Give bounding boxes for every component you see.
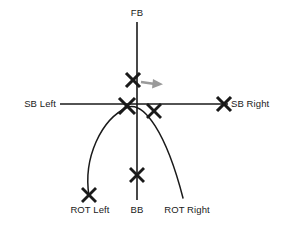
- diagram-canvas: FB SB Left SB Right ROT Left BB ROT Righ…: [0, 0, 286, 230]
- ball-path-arc: [88, 106, 183, 198]
- label-sb-left: SB Left: [24, 98, 56, 109]
- direction-arrow-head: [152, 79, 163, 89]
- label-rot-left: ROT Left: [70, 204, 109, 215]
- fb-marker-icon: [126, 73, 140, 87]
- label-sb-right: SB Right: [231, 98, 270, 109]
- direction-arrow-icon: [141, 79, 163, 89]
- label-rot-right: ROT Right: [164, 204, 210, 215]
- rot-left-marker-icon: [82, 188, 96, 202]
- ball-flight-diagram: FB SB Left SB Right ROT Left BB ROT Righ…: [0, 0, 286, 230]
- label-fb: FB: [131, 7, 143, 18]
- origin-right-marker-icon: [147, 104, 161, 118]
- label-bb: BB: [131, 204, 144, 215]
